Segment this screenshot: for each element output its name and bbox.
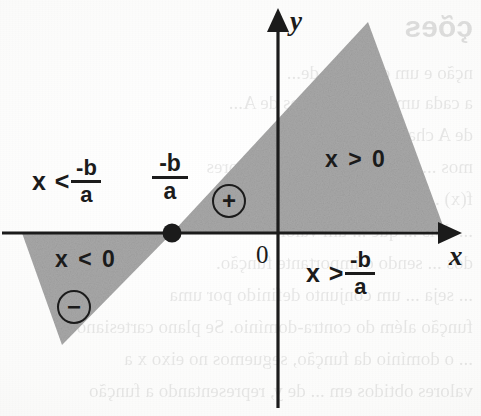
condition-left-fraction: -b a: [71, 157, 101, 206]
condition-right-numerator: -b: [347, 249, 374, 272]
root-point-marker: [163, 224, 182, 243]
root-numerator: -b: [159, 152, 181, 175]
condition-left-operator: x <: [32, 167, 70, 196]
negative-region-label: x < 0: [55, 248, 117, 271]
condition-right-operator: x >: [306, 259, 344, 288]
positive-sign-badge: +: [212, 184, 246, 218]
origin-label: 0: [256, 242, 269, 267]
sign-diagram-figure: ções nção e um conjunto de... a cada um …: [0, 0, 481, 416]
root-denominator: a: [164, 180, 177, 203]
condition-right-denominator: a: [351, 275, 369, 298]
root-value-label: -b a: [152, 152, 188, 203]
condition-right-fraction: -b a: [345, 249, 375, 298]
condition-left-of-root: x < -b a: [32, 157, 101, 206]
negative-sign-badge: −: [57, 290, 91, 324]
x-axis-label: x: [449, 243, 463, 270]
y-axis-arrowhead: [267, 8, 289, 32]
y-axis-label: y: [290, 8, 302, 35]
condition-right-of-root: x > -b a: [306, 249, 375, 298]
positive-region-label: x > 0: [325, 148, 387, 171]
condition-left-denominator: a: [77, 183, 95, 206]
condition-left-numerator: -b: [73, 157, 100, 180]
